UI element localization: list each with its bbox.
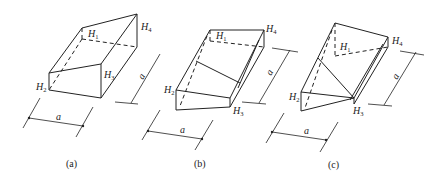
panel-c: H1 H2 H3 H4 a a (c) [266, 23, 424, 171]
dimension-label-width-b: a [180, 124, 185, 135]
label-h3-c: H3 [352, 105, 363, 117]
dimension-label-width-a: a [56, 111, 61, 122]
dimension-width-c [266, 113, 338, 152]
panel-a: H1 H2 H3 H4 a a (a) [23, 14, 160, 170]
label-h3-b: H3 [232, 105, 243, 117]
dimension-label-depth-c: a [389, 71, 401, 81]
dimension-width-b [142, 110, 213, 150]
caption-c: (c) [328, 159, 339, 171]
dimension-label-depth-b: a [263, 67, 275, 77]
label-h1-c: H1 [339, 41, 350, 53]
label-h2-a: H2 [35, 81, 46, 93]
label-h1-b: H1 [215, 30, 226, 42]
dimension-label-depth-a: a [135, 71, 147, 81]
dimension-depth-a [115, 54, 160, 104]
caption-b: (b) [194, 158, 206, 170]
caption-a: (a) [66, 158, 77, 170]
label-h4-a: H4 [140, 21, 152, 33]
dimension-label-width-c: a [304, 125, 309, 136]
label-h3-a: H3 [103, 69, 114, 81]
label-h4-c: H4 [391, 35, 403, 47]
label-h2-b: H2 [163, 84, 174, 96]
label-h1-a: H1 [87, 28, 98, 40]
prism-b [176, 30, 264, 110]
prism-diagram-figure: H1 H2 H3 H4 a a (a) [0, 0, 436, 184]
label-h2-c: H2 [288, 91, 299, 103]
prism-a [49, 14, 137, 98]
panel-b: H1 H2 H3 H4 a a (b) [142, 23, 298, 170]
prism-c [301, 23, 388, 111]
label-h4-b: H4 [265, 23, 277, 35]
